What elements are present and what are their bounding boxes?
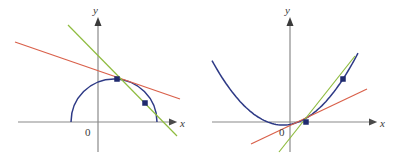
secant-line-green-left xyxy=(68,25,177,136)
panel-right-parabola: y x 0 xyxy=(212,4,385,152)
figure-container: y x 0 y x 0 xyxy=(0,0,396,161)
y-axis-label-right: y xyxy=(284,4,290,16)
tangency-point-upper-left xyxy=(114,76,120,82)
y-axis-label-left: y xyxy=(92,4,98,16)
y-axis-arrow-left xyxy=(95,17,102,26)
secant-point-lower-left xyxy=(142,100,148,106)
tangency-point-lower-right xyxy=(303,119,309,125)
x-axis-label-left: x xyxy=(179,117,185,129)
tangent-line-red-right xyxy=(251,89,367,144)
diagram-canvas: y x 0 y x 0 xyxy=(0,0,396,161)
x-axis-label-right: x xyxy=(379,117,385,129)
y-axis-arrow-right xyxy=(287,17,294,26)
origin-label-right: 0 xyxy=(279,126,285,138)
secant-point-upper-right xyxy=(340,76,346,82)
panel-left-semicircle: y x 0 xyxy=(15,4,185,152)
origin-label-left: 0 xyxy=(85,126,91,138)
parabola-curve xyxy=(212,53,358,125)
